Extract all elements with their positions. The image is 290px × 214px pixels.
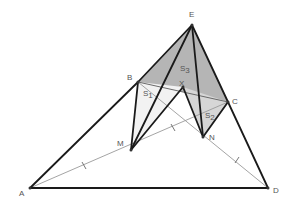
label-e: E	[189, 10, 194, 19]
side-ab	[30, 82, 138, 188]
label-d: D	[273, 186, 279, 195]
point-e	[191, 24, 194, 27]
side-cd	[228, 102, 268, 188]
point-c	[227, 101, 230, 104]
label-m: M	[117, 139, 124, 148]
point-a	[29, 187, 32, 190]
geometry-diagram: E B C X M N A D S3 S1 S2	[0, 0, 290, 214]
point-b	[137, 81, 140, 84]
label-c: C	[232, 97, 238, 106]
point-n	[202, 136, 205, 139]
label-b: B	[127, 73, 132, 82]
label-x: X	[179, 79, 185, 88]
diagonal-ac	[30, 102, 228, 188]
tick-mark-nd	[235, 157, 239, 163]
label-n: N	[209, 133, 215, 142]
label-a: A	[19, 189, 25, 198]
point-m	[130, 149, 133, 152]
point-d	[267, 187, 270, 190]
